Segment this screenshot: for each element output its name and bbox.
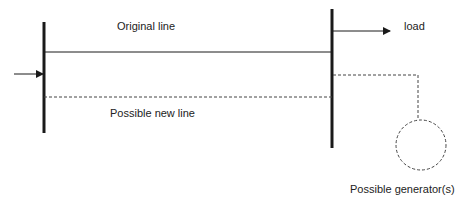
power-system-diagram: Original line Possible new line load Pos… — [0, 0, 463, 202]
generator-label: Possible generator(s) — [350, 183, 455, 195]
new-line-label: Possible new line — [110, 107, 195, 119]
original-line-label: Original line — [117, 20, 175, 32]
generator-connection-line — [333, 75, 418, 120]
load-label: load — [404, 20, 425, 32]
generator-circle-icon — [396, 120, 446, 170]
